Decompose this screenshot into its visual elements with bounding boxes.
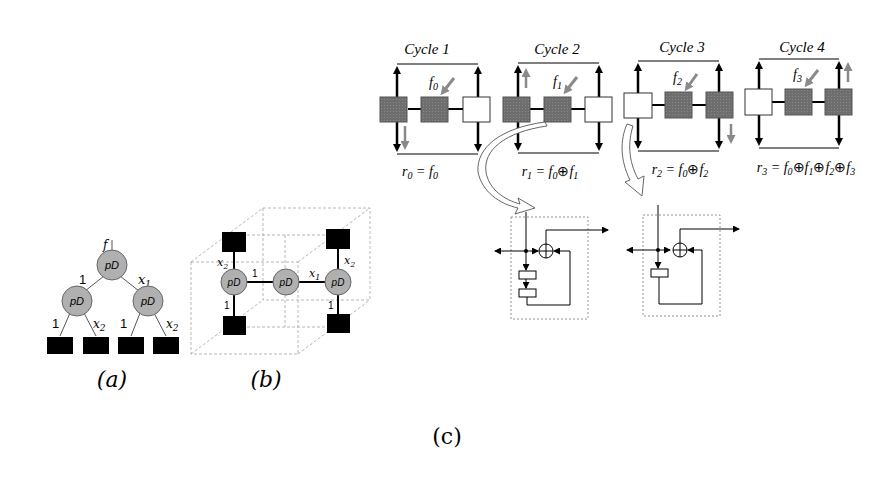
cycle-title: Cycle 1 <box>404 41 449 57</box>
cycle-title: Cycle 3 <box>659 39 704 55</box>
caption-a: (a) <box>97 367 127 392</box>
edge-label-left-bottom: 1 <box>224 300 230 311</box>
terminal-top-right <box>326 229 350 249</box>
pd-node-left: pD <box>62 286 92 316</box>
cycle-1: Cycle 1 f0 r0 = f0 <box>380 41 490 181</box>
input-arrow <box>566 77 577 91</box>
pd-node-center: pD <box>273 269 299 295</box>
curved-arrow-to-circuit-2 <box>622 124 644 196</box>
edge-label-right-right: x2 <box>166 317 179 333</box>
leaf-terminal <box>47 337 73 354</box>
edge-label-center-right: x1 <box>309 267 320 282</box>
svg-text:pD: pD <box>331 277 345 288</box>
leaf-terminal <box>83 337 109 354</box>
svg-text:pD: pD <box>279 277 293 288</box>
svg-text:pD: pD <box>69 295 84 307</box>
pd-node-left: pD <box>221 269 247 295</box>
svg-text:pD: pD <box>104 259 119 271</box>
input-label: f1 <box>553 74 562 91</box>
edge-label-right-top: x2 <box>344 254 355 269</box>
pd-node-root: pD <box>97 250 127 280</box>
cycle-4: Cycle 4 f3 r3 = f0⊕f1⊕f2⊕f3 <box>745 39 855 177</box>
input-arrow <box>807 70 818 84</box>
pd-node-right: pD <box>325 269 351 295</box>
input-label: f3 <box>793 67 802 84</box>
edge-label-right-bottom: 1 <box>328 300 334 311</box>
circuit-two-register <box>495 212 608 319</box>
panel-c-cycles: Cycle 1 f0 r0 = f0 Cycle 2 <box>380 39 855 449</box>
panel-b-cube: pD pD pD x2 1 1 x1 x2 1 (b) <box>191 208 370 392</box>
edge-label-left-left: 1 <box>52 316 59 331</box>
cycle-equation: r2 = f0⊕f2 <box>652 162 709 179</box>
circuit-one-register <box>627 205 739 316</box>
input-arrow <box>443 78 454 92</box>
terminal-bottom-right <box>327 314 350 333</box>
terminal-top-left <box>222 232 246 252</box>
leaf-terminal <box>118 337 144 354</box>
cycle-equation: r1 = f0⊕f1 <box>522 164 579 181</box>
svg-text:pD: pD <box>227 277 241 288</box>
pd-node-right: pD <box>133 286 163 316</box>
register <box>651 269 668 277</box>
figure-canvas: f 1 x1 1 x2 1 x2 pD pD pD (a) <box>0 0 894 481</box>
edge-label-root-left: 1 <box>79 272 86 287</box>
input-label: f0 <box>429 75 438 92</box>
leaf-terminal <box>153 337 179 354</box>
terminal-bottom-left <box>223 316 246 335</box>
register <box>519 271 536 279</box>
edge-label-left-top: x2 <box>217 256 228 271</box>
register <box>519 289 536 297</box>
svg-text:pD: pD <box>140 295 155 307</box>
edge-label-right-left: 1 <box>120 316 127 331</box>
edge-label-left-right: x2 <box>93 317 106 333</box>
caption-c: (c) <box>432 424 462 449</box>
input-arrow <box>687 74 697 88</box>
cycle-title: Cycle 2 <box>534 41 580 57</box>
cycle-equation: r3 = f0⊕f1⊕f2⊕f3 <box>757 160 855 177</box>
edge-label-center-left: 1 <box>252 268 258 279</box>
cycle-title: Cycle 4 <box>779 39 825 55</box>
caption-b: (b) <box>250 367 281 392</box>
cycle-3: Cycle 3 f2 r2 = f0⊕f2 <box>624 39 733 179</box>
panel-a-tree: f 1 x1 1 x2 1 x2 pD pD pD (a) <box>47 238 179 392</box>
cycle-equation: r0 = f0 <box>402 164 438 181</box>
input-label: f2 <box>673 70 682 87</box>
cycle-2: Cycle 2 f1 r1 = f0⊕f1 <box>503 41 612 181</box>
